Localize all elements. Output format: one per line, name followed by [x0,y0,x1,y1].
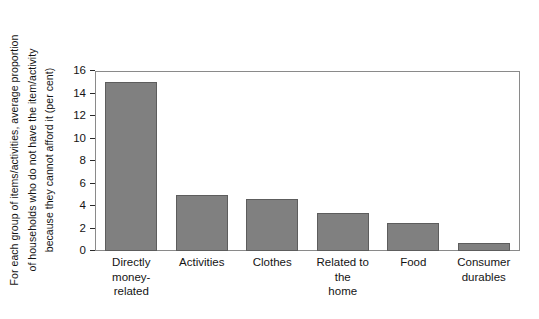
y-axis-label-line-3: because they cannot afford it (per cent) [41,34,59,285]
x-axis-labels: Directlymoney-relatedActivitiesClothesRe… [96,255,519,303]
y-tick-mark [90,138,95,139]
x-axis-category-label-line: Clothes [237,255,308,270]
x-axis-category-label-line: Food [378,255,449,270]
x-axis-category-label-line: Related to the [308,255,379,284]
x-axis-category-label-line: money-related [96,270,167,299]
bar [246,199,298,251]
y-tick-mark [90,228,95,229]
x-axis-category-label: Consumerdurables [449,255,520,284]
y-tick-mark [90,205,95,206]
x-axis-category-label: Clothes [237,255,308,270]
bar [387,223,439,251]
y-tick-label: 0 [80,243,86,258]
y-tick-mark [90,93,95,94]
bar [458,243,510,251]
bar [317,213,369,251]
x-axis-category-label-line: Directly [96,255,167,270]
y-tick-label: 14 [73,86,86,101]
y-tick-mark [90,70,95,71]
y-tick-mark [90,115,95,116]
y-axis-label-line-1: For each group of items/activities, aver… [6,34,24,285]
x-axis-category-label: Activities [167,255,238,270]
x-axis-category-label-line: home [308,284,379,299]
x-axis-category-label: Related to thehome [308,255,379,299]
y-tick-label: 2 [80,221,86,236]
y-tick-label: 8 [80,153,86,168]
bar [176,195,228,251]
x-axis-category-label: Food [378,255,449,270]
bar [105,82,157,251]
y-tick-mark [90,183,95,184]
x-axis-category-label-line: Consumer [449,255,520,270]
x-axis-category-label-line: Activities [167,255,238,270]
x-axis-category-label: Directlymoney-related [96,255,167,299]
y-tick-label: 12 [73,108,86,123]
y-tick-label: 16 [73,63,86,78]
y-tick-mark [90,250,95,251]
bar-chart-figure: For each group of items/activities, aver… [0,0,539,319]
y-axis-label-line-2: of households who do not have the item/a… [23,34,41,285]
y-tick-label: 10 [73,131,86,146]
y-tick-label: 6 [80,176,86,191]
y-tick-mark [90,160,95,161]
bar-series [96,72,519,251]
y-axis-label: For each group of items/activities, aver… [0,0,64,319]
y-tick-label: 4 [80,198,86,213]
x-axis-category-label-line: durables [449,270,520,285]
